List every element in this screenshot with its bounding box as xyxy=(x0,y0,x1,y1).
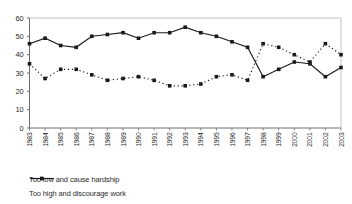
data-point-marker xyxy=(324,42,328,46)
axis-labels: 0102030405060198319841985198619871988198… xyxy=(16,14,345,147)
data-point-marker xyxy=(339,53,343,57)
y-tick-label: 0 xyxy=(20,124,24,133)
x-tick-label: 1986 xyxy=(73,132,80,147)
data-point-marker xyxy=(215,75,219,79)
x-tick-label: 2001 xyxy=(306,132,313,147)
data-point-marker xyxy=(261,75,265,79)
data-point-marker xyxy=(152,31,156,35)
data-point-marker xyxy=(308,60,312,64)
data-point-marker xyxy=(246,46,250,50)
data-point-marker xyxy=(74,68,78,72)
data-point-marker xyxy=(43,36,47,40)
chart-legend: Too low and cause hardship Too high and … xyxy=(29,174,126,199)
x-tick-label: 2003 xyxy=(338,132,345,147)
data-point-marker xyxy=(106,79,110,83)
data-point-marker xyxy=(59,68,63,72)
x-tick-label: 1983 xyxy=(26,132,33,147)
x-tick-label: 1992 xyxy=(166,132,173,147)
legend-item-too-high: Too high and discourage work xyxy=(29,188,126,199)
x-tick-label: 1998 xyxy=(260,132,267,147)
data-point-marker xyxy=(90,73,94,77)
benefits-opinion-line-chart: 0102030405060198319841985198619871988198… xyxy=(0,0,352,204)
data-point-marker xyxy=(74,46,78,50)
data-point-marker xyxy=(324,75,328,79)
y-tick-label: 60 xyxy=(16,14,24,23)
data-point-marker xyxy=(28,62,32,66)
data-point-marker xyxy=(183,84,187,88)
data-point-marker xyxy=(43,77,47,81)
y-tick-label: 50 xyxy=(16,32,24,41)
x-tick-label: 1995 xyxy=(213,132,220,147)
x-tick-label: 1997 xyxy=(244,132,251,147)
legend-label-too-high: Too high and discourage work xyxy=(29,188,126,199)
x-tick-label: 1999 xyxy=(275,132,282,147)
data-point-marker xyxy=(277,68,281,72)
x-tick-label: 1994 xyxy=(197,132,204,147)
data-point-marker xyxy=(339,66,343,70)
x-tick-label: 1988 xyxy=(104,132,111,147)
y-tick-label: 40 xyxy=(16,50,24,59)
data-point-marker xyxy=(261,42,265,46)
data-point-marker xyxy=(246,79,250,83)
series-line xyxy=(30,44,342,86)
x-tick-label: 2002 xyxy=(322,132,329,147)
data-point-marker xyxy=(293,60,297,64)
data-point-marker xyxy=(121,31,125,35)
data-point-marker xyxy=(293,53,297,57)
data-point-marker xyxy=(199,31,203,35)
y-tick-label: 20 xyxy=(16,87,24,96)
data-point-marker xyxy=(199,82,203,86)
data-point-marker xyxy=(152,79,156,83)
series-layer xyxy=(28,25,343,87)
data-point-marker xyxy=(59,44,63,48)
data-point-marker xyxy=(137,75,141,79)
x-tick-label: 1985 xyxy=(57,132,64,147)
plot-frame xyxy=(27,18,341,131)
data-point-marker xyxy=(277,46,281,50)
x-tick-label: 1987 xyxy=(88,132,95,147)
data-point-marker xyxy=(230,73,234,77)
dotted-line-sample-icon xyxy=(29,174,55,183)
data-point-marker xyxy=(168,31,172,35)
x-tick-label: 1996 xyxy=(229,132,236,147)
x-tick-label: 1989 xyxy=(120,132,127,147)
y-tick-label: 10 xyxy=(16,105,24,114)
data-point-marker xyxy=(168,84,172,88)
x-tick-label: 1984 xyxy=(42,132,49,147)
data-point-marker xyxy=(183,25,187,29)
x-tick-label: 1991 xyxy=(151,132,158,147)
y-tick-label: 30 xyxy=(16,69,24,78)
data-point-marker xyxy=(121,77,125,81)
data-point-marker xyxy=(230,40,234,44)
data-point-marker xyxy=(137,36,141,40)
data-point-marker xyxy=(215,35,219,39)
data-point-marker xyxy=(90,35,94,39)
data-point-marker xyxy=(106,33,110,37)
data-point-marker xyxy=(28,42,32,46)
x-tick-label: 2000 xyxy=(291,132,298,147)
x-tick-label: 1993 xyxy=(182,132,189,147)
x-tick-label: 1990 xyxy=(135,132,142,147)
